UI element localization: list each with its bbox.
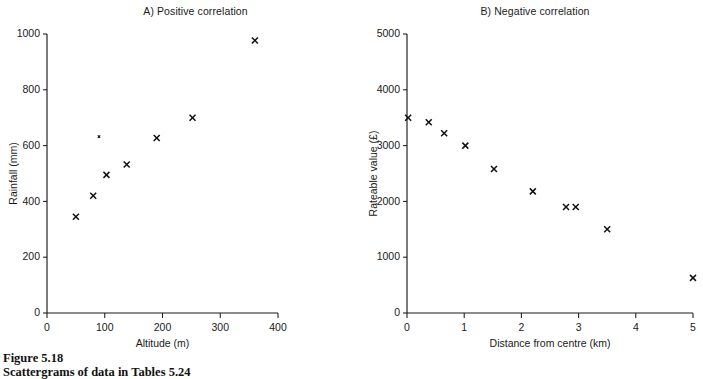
y-tick-label: 400 [22,195,40,207]
y-tick-label: 1000 [377,250,401,262]
data-point [103,172,109,178]
x-tick-label: 400 [269,321,287,333]
data-point [563,204,569,210]
scatter-plot-b: 010002000300040005000012345Distance from… [351,0,703,348]
y-axis-title: Rainfall (mm) [7,142,19,204]
figure-caption-title: Figure 5.18 [3,352,463,365]
x-tick-label: 200 [154,321,172,333]
figure-caption-subtitle: Scattergrams of data in Tables 5.24 [3,366,463,379]
data-point [462,143,468,149]
x-tick-label: 300 [211,321,229,333]
data-point [491,166,497,172]
data-point [98,135,100,137]
x-tick-label: 3 [576,321,582,333]
data-point [405,115,411,121]
x-axis-title: Distance from centre (km) [490,337,611,349]
y-axis-title: Rateable value (£) [367,131,379,217]
data-point [426,119,432,125]
x-axis-title: Altitude (m) [136,337,190,349]
x-tick-label: 2 [518,321,524,333]
x-tick-label: 0 [404,321,410,333]
x-tick-label: 1 [461,321,467,333]
y-tick-label: 5000 [377,27,401,39]
y-tick-label: 0 [394,306,400,318]
x-tick-label: 5 [690,321,696,333]
y-tick-label: 800 [22,83,40,95]
data-point [530,188,536,194]
data-point [252,37,258,43]
figure-caption: Figure 5.18 Scattergrams of data in Tabl… [3,352,463,379]
y-tick-label: 3000 [377,139,401,151]
y-tick-label: 200 [22,250,40,262]
scatter-plot-a: 020040060080010000100200300400Altitude (… [0,0,351,348]
chart-panel-positive-correlation: A) Positive correlation 0200400600800100… [0,0,351,348]
data-point [73,214,79,220]
y-tick-label: 4000 [377,83,401,95]
data-point [604,226,610,232]
x-tick-label: 100 [96,321,114,333]
data-point [90,193,96,199]
x-tick-label: 4 [633,321,639,333]
data-point [690,275,696,281]
data-point [154,135,160,141]
data-point [573,204,579,210]
data-point [124,162,130,168]
data-point [190,115,196,121]
y-tick-label: 0 [34,306,40,318]
data-point [441,130,447,136]
y-tick-label: 2000 [377,195,401,207]
y-tick-label: 1000 [17,27,41,39]
chart-panel-negative-correlation: B) Negative correlation 0100020003000400… [351,0,703,348]
y-tick-label: 600 [22,139,40,151]
x-tick-label: 0 [44,321,50,333]
